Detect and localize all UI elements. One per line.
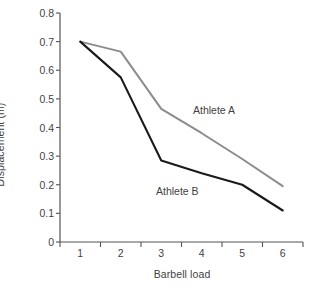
- data-series-athlete-a: [80, 42, 283, 187]
- x-axis-tick-label: 6: [280, 247, 286, 259]
- x-axis-tick-label: 1: [77, 247, 83, 259]
- x-axis-tick-label: 3: [158, 247, 164, 259]
- plot-area: [0, 0, 313, 289]
- x-axis-tick-label: 4: [199, 247, 205, 259]
- line-chart: Displacement (m) 00.10.20.30.40.50.60.70…: [0, 0, 313, 289]
- series-annotation-athlete-b: Athlete B: [156, 185, 199, 197]
- x-axis-tick-label: 5: [239, 247, 245, 259]
- series-annotation-athlete-a: Athlete A: [193, 104, 235, 116]
- x-axis-tick-label: 2: [118, 247, 124, 259]
- x-axis-title: Barbell load: [60, 268, 304, 280]
